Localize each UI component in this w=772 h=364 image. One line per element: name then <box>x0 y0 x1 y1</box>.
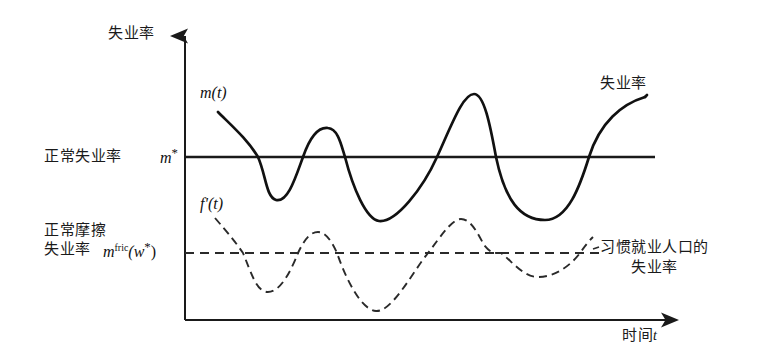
y-axis-title: 失业率 <box>108 24 155 43</box>
frictional-label-line-1: 正常摩擦 <box>44 221 106 240</box>
m-fric-w-star-symbol: mfric(w*) <box>103 240 156 261</box>
f-prime-of-t-curve-label: f'(t) <box>200 195 223 213</box>
m-of-t-base: m <box>200 84 212 101</box>
x-axis-title-variable: t <box>653 328 657 343</box>
frictional-unemployment-rate-label: 正常摩擦 失业率 <box>44 221 106 259</box>
f-prime-of-t-curve <box>215 218 593 311</box>
normal-unemployment-rate-label: 正常失业率 <box>44 147 122 166</box>
f-prime-argument: (t) <box>208 195 223 212</box>
x-axis-title: 时间t <box>622 326 657 345</box>
m-fric-superscript: fric <box>115 242 129 253</box>
m-of-t-curve-label: m(t) <box>200 84 227 102</box>
habitual-annotation-line-1: 习惯就业人口的 <box>600 238 709 258</box>
habitual-employment-annotation: 习惯就业人口的 失业率 <box>600 238 709 277</box>
unemployment-rate-diagram: 失业率 时间t 正常失业率 m* 正常摩擦 失业率 mfric(w*) m(t)… <box>0 0 772 364</box>
m-fric-argument-open: (w <box>128 243 144 260</box>
m-of-t-tail <box>645 95 647 97</box>
m-fric-base: m <box>103 243 115 260</box>
m-star-base: m <box>160 149 172 166</box>
unemployment-rate-annotation: 失业率 <box>600 74 647 93</box>
x-axis-title-text: 时间 <box>622 327 653 343</box>
habitual-annotation-line-2: 失业率 <box>600 258 709 278</box>
m-star-symbol: m* <box>160 146 178 167</box>
frictional-label-line-2: 失业率 <box>44 240 106 259</box>
m-of-t-argument: (t) <box>212 84 227 101</box>
diagram-canvas <box>0 0 772 364</box>
habitual-label-leader <box>593 247 599 249</box>
m-star-superscript: * <box>172 146 178 160</box>
m-fric-argument-close: ) <box>151 243 156 260</box>
